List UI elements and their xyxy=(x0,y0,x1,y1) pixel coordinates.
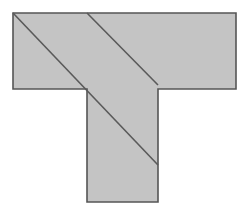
figure-canvas xyxy=(0,0,249,215)
t-shape-diagram xyxy=(0,0,249,215)
t-shape-polygon xyxy=(13,13,236,202)
